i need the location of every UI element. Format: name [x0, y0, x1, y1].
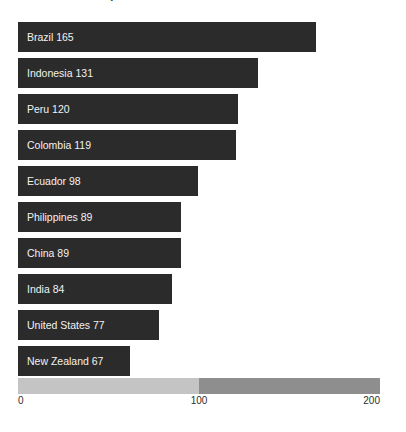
scale-segment-high — [199, 378, 380, 394]
bar-label: United States 77 — [27, 320, 105, 331]
bar-row: New Zealand 67 — [0, 346, 406, 376]
bar-row: India 84 — [0, 274, 406, 304]
page-title: ...countries and species — [18, 0, 145, 1]
bar-row: Philippines 89 — [0, 202, 406, 232]
bar-row: Peru 120 — [0, 94, 406, 124]
axis-tick-0: 0 — [18, 395, 24, 406]
bar-label: Ecuador 98 — [27, 176, 81, 187]
bar-colombia[interactable]: Colombia 119 — [18, 130, 236, 160]
bar-label: Indonesia 131 — [27, 68, 93, 79]
bar-united-states[interactable]: United States 77 — [18, 310, 159, 340]
bar-row: United States 77 — [0, 310, 406, 340]
bar-row: Colombia 119 — [0, 130, 406, 160]
bar-label: Peru 120 — [27, 104, 70, 115]
scale-axis: 0 100 200 — [18, 378, 380, 411]
scale-segment-low — [18, 378, 199, 394]
bar-label: Colombia 119 — [27, 140, 91, 151]
bar-row: Indonesia 131 — [0, 58, 406, 88]
bars-area: Brazil 165 Indonesia 131 Peru 120 Colomb… — [0, 22, 406, 382]
bar-philippines[interactable]: Philippines 89 — [18, 202, 181, 232]
bar-new-zealand[interactable]: New Zealand 67 — [18, 346, 130, 376]
axis-tick-100: 100 — [191, 395, 208, 406]
bar-label: Brazil 165 — [27, 32, 74, 43]
bar-label: New Zealand 67 — [27, 356, 103, 367]
bar-china[interactable]: China 89 — [18, 238, 181, 268]
bar-label: India 84 — [27, 284, 64, 295]
bar-ecuador[interactable]: Ecuador 98 — [18, 166, 198, 196]
bar-label: Philippines 89 — [27, 212, 92, 223]
bar-row: China 89 — [0, 238, 406, 268]
bar-peru[interactable]: Peru 120 — [18, 94, 238, 124]
bar-brazil[interactable]: Brazil 165 — [18, 22, 316, 52]
bar-india[interactable]: India 84 — [18, 274, 172, 304]
bar-row: Ecuador 98 — [0, 166, 406, 196]
bar-row: Brazil 165 — [0, 22, 406, 52]
bar-indonesia[interactable]: Indonesia 131 — [18, 58, 258, 88]
bar-label: China 89 — [27, 248, 69, 259]
scale-tick-labels: 0 100 200 — [18, 395, 380, 411]
bar-chart: ...countries and species Brazil 165 Indo… — [0, 0, 406, 432]
scale-gradient-bar — [18, 378, 380, 394]
axis-tick-200: 200 — [363, 395, 380, 406]
